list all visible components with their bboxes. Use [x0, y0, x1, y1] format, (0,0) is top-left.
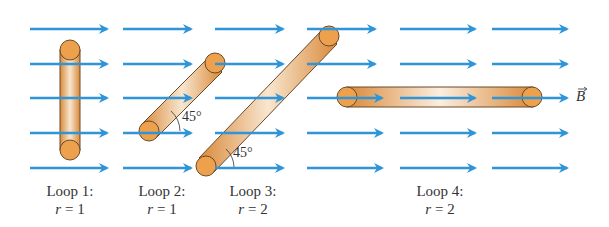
magnetic-field-loops-diagram: 45° 45° B Loop 1: r = 1 Loop 2: r = 1 Lo…: [0, 0, 609, 227]
loop-3-label: Loop 3: r = 2: [213, 182, 293, 218]
angle-label-loop-3: 45°: [233, 145, 253, 161]
loop-4-label: Loop 4: r = 2: [400, 182, 480, 218]
loop-2-label: Loop 2: r = 1: [122, 182, 202, 218]
loop-1: [60, 40, 80, 160]
field-label-b: B: [576, 88, 585, 105]
loop-1-label: Loop 1: r = 1: [30, 182, 110, 218]
loop-3: [196, 26, 339, 176]
angle-label-loop-2: 45°: [182, 109, 202, 125]
